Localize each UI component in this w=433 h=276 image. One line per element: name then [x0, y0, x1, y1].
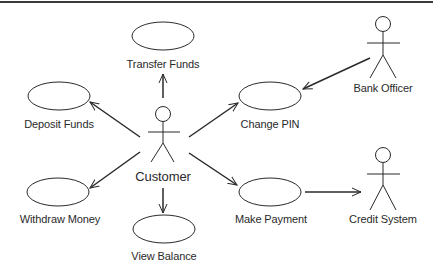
use-case-transfer-funds: [132, 22, 194, 50]
use-case-make-payment: [239, 178, 301, 206]
use-case-change-pin: [239, 82, 301, 110]
label-view-balance: View Balance: [131, 250, 196, 262]
assoc-customer-make-payment: [189, 153, 237, 185]
label-change-pin: Change PIN: [241, 118, 300, 130]
label-actor-bank-officer: Bank Officer: [353, 82, 412, 94]
use-case-view-balance: [133, 215, 195, 243]
label-actor-credit-system: Credit System: [349, 213, 417, 225]
assoc-customer-withdraw-money: [90, 152, 140, 188]
actor-credit-system-icon: [367, 148, 400, 211]
label-deposit-funds: Deposit Funds: [24, 118, 94, 130]
label-transfer-funds: Transfer Funds: [127, 58, 200, 70]
label-make-payment: Make Payment: [235, 213, 307, 225]
actor-customer-icon: [148, 107, 180, 163]
label-withdraw-money: Withdraw Money: [20, 213, 101, 225]
actor-bank-officer-icon: [367, 17, 400, 79]
assoc-customer-deposit-funds: [90, 102, 140, 137]
assoc-customer-change-pin: [189, 103, 238, 137]
label-actor-customer: Customer: [135, 169, 191, 184]
use-case-withdraw-money: [27, 178, 89, 206]
use-case-diagram: [0, 0, 433, 276]
use-case-deposit-funds: [28, 82, 90, 110]
